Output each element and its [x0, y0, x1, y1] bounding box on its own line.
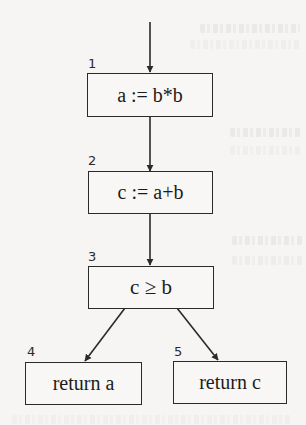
node-5-number: 5 — [174, 345, 182, 358]
node-2-statement: c := a+b — [118, 181, 184, 204]
node-4-statement: return a — [53, 372, 115, 395]
node-2-box: c := a+b — [88, 171, 213, 214]
node-1-number: 1 — [88, 57, 96, 70]
node-4-box: return a — [25, 362, 142, 405]
node-3-condition: c ≥ b — [130, 275, 172, 300]
node-4-number: 4 — [27, 345, 35, 358]
node-1-box: a := b*b — [87, 73, 213, 117]
node-3-number: 3 — [88, 250, 96, 263]
node-5-statement: return c — [199, 371, 261, 394]
node-1-statement: a := b*b — [117, 84, 183, 107]
diagram-page: 1 a := b*b 2 c := a+b 3 c ≥ b 4 return a… — [0, 0, 306, 425]
edge-3-to-5 — [177, 308, 218, 360]
node-2-number: 2 — [88, 154, 96, 167]
node-3-box: c ≥ b — [88, 266, 214, 309]
node-5-box: return c — [173, 361, 287, 404]
edge-3-to-4 — [85, 308, 125, 361]
